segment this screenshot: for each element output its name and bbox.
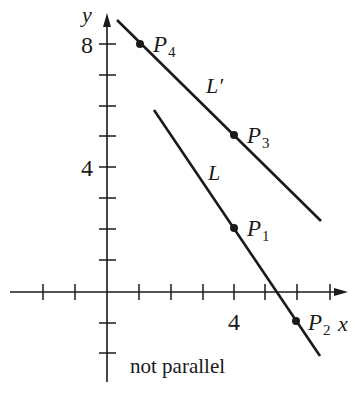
- y-axis-label: y: [80, 2, 92, 27]
- slope-diagram: y x 8 4 4 L′ L P 4 P 3 P 1 P 2 not paral…: [0, 0, 358, 399]
- svg-text:1: 1: [262, 228, 270, 244]
- svg-text:2: 2: [323, 322, 331, 338]
- svg-text:P: P: [152, 32, 167, 57]
- y-axis: [99, 13, 116, 382]
- y-tick-label-4: 4: [81, 155, 93, 181]
- point-p3-label: P 3: [246, 123, 270, 151]
- point-p2-label: P 2: [307, 310, 331, 338]
- svg-text:P: P: [307, 310, 322, 335]
- svg-text:P: P: [246, 123, 261, 148]
- x-axis: [10, 284, 348, 300]
- point-p2: [292, 317, 300, 325]
- line-l-prime: [117, 20, 321, 221]
- point-p1: [230, 224, 238, 232]
- y-axis-arrow-icon: [103, 13, 111, 27]
- svg-text:3: 3: [262, 135, 270, 151]
- x-axis-label: x: [337, 311, 348, 336]
- point-p4-label: P 4: [152, 32, 176, 60]
- point-p4: [136, 40, 144, 48]
- point-p3: [230, 131, 238, 139]
- svg-text:P: P: [246, 216, 261, 241]
- x-axis-arrow-icon: [334, 288, 348, 296]
- caption: not parallel: [130, 354, 225, 378]
- line-l-prime-label: L′: [205, 73, 224, 98]
- line-l-label: L: [207, 160, 220, 185]
- svg-text:4: 4: [168, 44, 176, 60]
- point-p1-label: P 1: [246, 216, 270, 244]
- y-tick-label-8: 8: [81, 32, 93, 58]
- x-tick-label-4: 4: [228, 309, 240, 335]
